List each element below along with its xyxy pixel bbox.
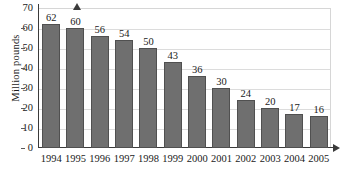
y-axis-tick-mark [21, 128, 25, 129]
bar-group[interactable]: 54 [115, 8, 133, 148]
y-axis-tick-mark [21, 28, 25, 29]
bar-chart-figure: Million pounds 010203040506070 626056545… [0, 0, 355, 187]
bar-value-label: 50 [131, 36, 165, 47]
y-axis-tick-labels: 010203040506070 [14, 8, 33, 148]
bars-layer: 626056545043363024201716 [39, 8, 331, 148]
bar[interactable] [237, 100, 255, 148]
bar-group[interactable]: 60 [66, 8, 84, 148]
bar[interactable] [115, 40, 133, 148]
bar[interactable] [164, 62, 182, 148]
bar-group[interactable]: 56 [91, 8, 109, 148]
bar-value-label: 36 [180, 64, 214, 75]
bar[interactable] [310, 116, 328, 148]
bar-value-label: 43 [156, 50, 190, 61]
x-axis-arrow-icon [333, 144, 340, 152]
x-axis-tick-label: 2003 [258, 152, 282, 165]
bar[interactable] [212, 88, 230, 148]
x-axis-tick-label: 2001 [209, 152, 233, 165]
x-axis-tick-label: 1994 [39, 152, 63, 165]
bar-group[interactable]: 36 [188, 8, 206, 148]
x-axis-tick-label: 2002 [234, 152, 258, 165]
y-axis-tick-mark [21, 148, 25, 149]
bar-group[interactable]: 17 [285, 8, 303, 148]
bar[interactable] [66, 28, 84, 148]
bar-group[interactable]: 20 [261, 8, 279, 148]
bar-group[interactable]: 30 [212, 8, 230, 148]
bar[interactable] [188, 76, 206, 148]
x-axis-tick-label: 1999 [161, 152, 185, 165]
x-axis-tick-label: 2005 [307, 152, 331, 165]
bar[interactable] [261, 108, 279, 148]
x-axis-tick-label: 1998 [136, 152, 160, 165]
y-axis-tick-mark [21, 68, 25, 69]
y-axis-tick-mark [21, 88, 25, 89]
bar-group[interactable]: 24 [237, 8, 255, 148]
x-axis-tick-label: 1997 [112, 152, 136, 165]
bar[interactable] [285, 114, 303, 148]
bar[interactable] [139, 48, 157, 148]
y-axis-tick-mark [21, 48, 25, 49]
y-axis-tick-label: 70 [14, 3, 33, 13]
bar[interactable] [91, 36, 109, 148]
bar-group[interactable]: 50 [139, 8, 157, 148]
y-axis-tick-mark [21, 108, 25, 109]
x-axis-tick-label: 1996 [88, 152, 112, 165]
bar-group[interactable]: 62 [42, 8, 60, 148]
bar-group[interactable]: 16 [310, 8, 328, 148]
bar-group[interactable]: 43 [164, 8, 182, 148]
bar[interactable] [42, 24, 60, 148]
x-axis-tick-label: 2000 [185, 152, 209, 165]
bar-value-label: 30 [204, 76, 238, 87]
x-axis-tick-labels: 1994199519961997199819992000200120022003… [39, 152, 331, 168]
bar-value-label: 16 [302, 104, 336, 115]
x-axis-tick-label: 2004 [282, 152, 306, 165]
x-axis-tick-label: 1995 [63, 152, 87, 165]
